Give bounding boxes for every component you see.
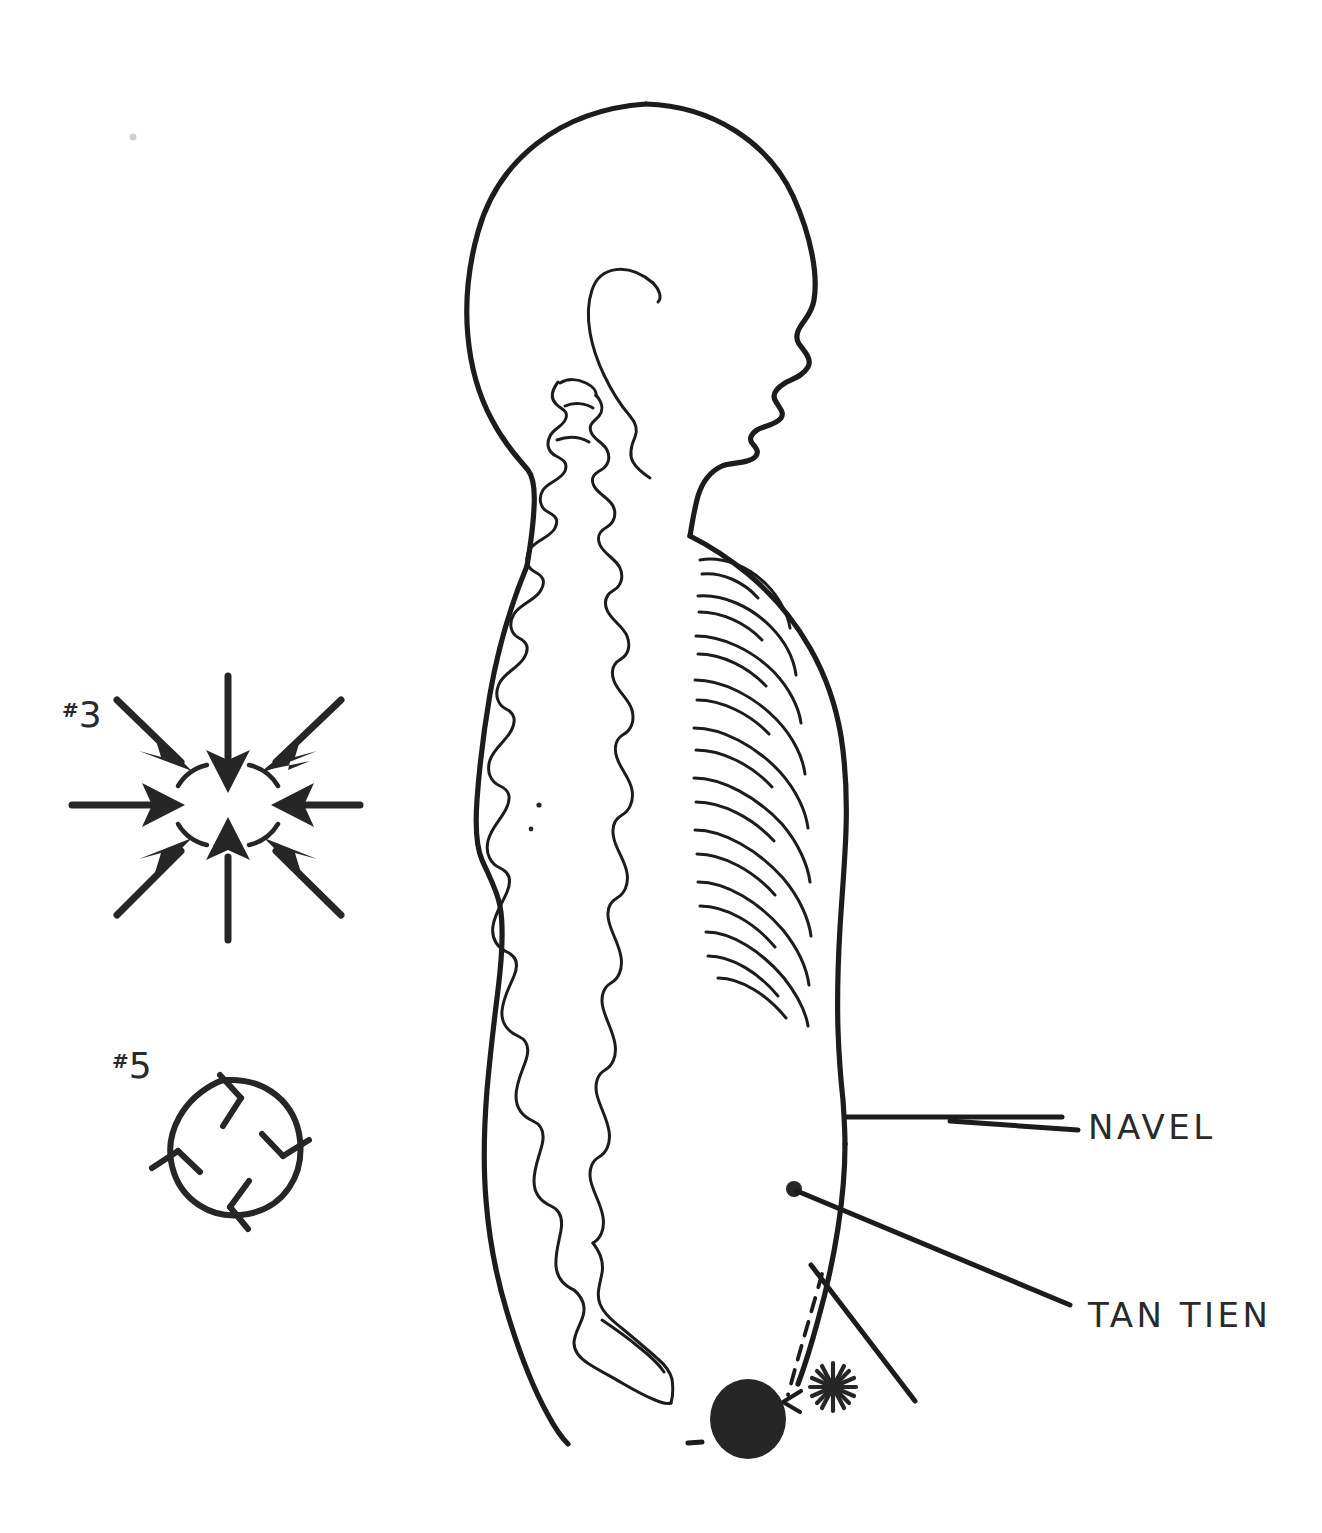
rib-5 — [694, 728, 808, 828]
ear-inner-curve — [653, 283, 660, 302]
rib-1 — [700, 559, 790, 628]
symbol-5-number: 5 — [129, 1045, 153, 1086]
spine-posterior-chain — [487, 382, 574, 1290]
sacrum-outline — [574, 1290, 671, 1403]
label-symbol-3: #3 — [62, 694, 103, 735]
asterisk-icon — [810, 1363, 856, 1411]
cervical-vertebra-detail-1 — [565, 404, 593, 408]
vertebra-dot-1 — [536, 802, 541, 807]
label-tan-tien: TAN TIEN — [1088, 1295, 1271, 1335]
face-profile-outline — [646, 104, 815, 536]
diagram-page: NAVEL TAN TIEN #3 #5 — [0, 0, 1322, 1533]
navel-leader-line-continued — [950, 1121, 1078, 1130]
back-contour — [476, 566, 568, 1444]
rib-4 — [695, 680, 805, 774]
symbol-5-hash: # — [112, 1049, 129, 1073]
vertebra-dot-2 — [529, 827, 534, 832]
symbol-5-graphic — [152, 1075, 309, 1229]
label-symbol-5: #5 — [112, 1045, 153, 1086]
head-outline — [467, 104, 646, 566]
symbol-3-number: 3 — [79, 694, 103, 735]
tan-tien-dashed-arrow — [788, 1274, 822, 1395]
rib-6 — [694, 778, 810, 882]
tan-tien-oval-marker — [710, 1379, 786, 1459]
cervical-vertebra-detail-2 — [557, 438, 589, 442]
label-navel: NAVEL — [1088, 1107, 1216, 1147]
cervical-vertebrae — [560, 380, 596, 396]
symbol-3-graphic — [72, 676, 360, 940]
tan-tien-leader-line — [797, 1191, 1070, 1305]
symbol-3-hash: # — [62, 698, 79, 722]
front-contour — [690, 536, 846, 1144]
ear-outline — [588, 269, 653, 478]
spine-anterior-chain — [590, 395, 633, 1243]
scan-speck — [130, 134, 137, 141]
rib-6b — [696, 802, 774, 841]
sacrum-ridge — [602, 1320, 664, 1372]
dashed-arrow-head — [783, 1391, 801, 1412]
rib-10 — [718, 978, 786, 1018]
abdomen-contour — [798, 1144, 845, 1384]
rib-3 — [696, 636, 801, 723]
oval-tick-mark — [688, 1442, 702, 1443]
